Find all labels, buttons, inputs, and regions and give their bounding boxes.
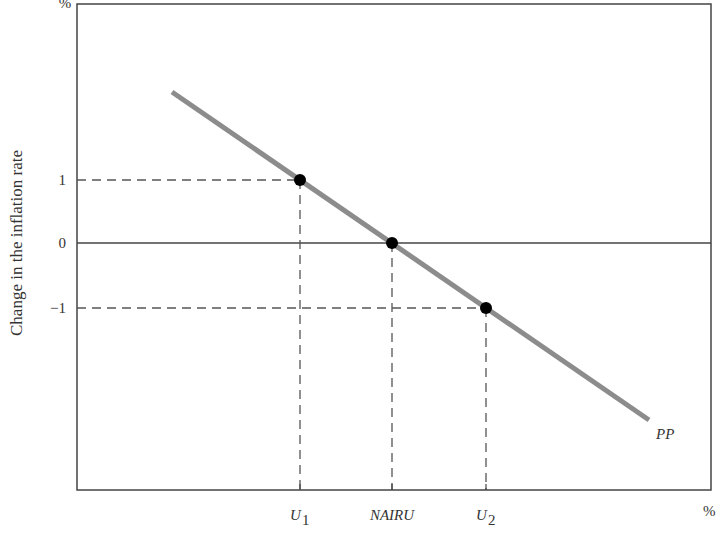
point-u2 bbox=[480, 302, 492, 314]
y-tick-minus-1: −1 bbox=[50, 300, 66, 316]
y-axis-title: Change in the inflation rate bbox=[7, 150, 26, 336]
y-unit-label: % bbox=[59, 0, 72, 11]
x-unit-label: % bbox=[703, 503, 716, 519]
curve-label-pp: PP bbox=[655, 426, 674, 442]
phillips-curve-chart: 1 0 −1 % Change in the inflation rate U … bbox=[0, 0, 718, 545]
y-tick-1: 1 bbox=[59, 172, 67, 188]
x-ticks bbox=[300, 484, 486, 490]
pp-curve bbox=[172, 92, 649, 420]
svg-text:2: 2 bbox=[488, 512, 496, 528]
x-tick-u1: U 1 bbox=[290, 507, 310, 528]
x-tick-u2: U 2 bbox=[476, 507, 496, 528]
guide-lines bbox=[77, 180, 486, 490]
y-tick-0: 0 bbox=[59, 235, 67, 251]
point-u1 bbox=[294, 174, 306, 186]
x-tick-nairu: NAIRU bbox=[369, 507, 415, 523]
svg-text:U: U bbox=[476, 507, 488, 523]
svg-text:1: 1 bbox=[302, 512, 310, 528]
point-nairu bbox=[386, 237, 398, 249]
svg-text:U: U bbox=[290, 507, 302, 523]
